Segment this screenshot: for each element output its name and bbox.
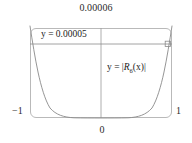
chart-title: 0.00006 — [0, 2, 192, 13]
curve-label: y = |R6(x)| — [107, 62, 146, 74]
curve-label-suffix: (x)| — [133, 62, 146, 72]
chart-screenshot: 0.00006 y = 0.00005 y = |R6(x)| −1 1 0 — [0, 0, 192, 143]
curve-label-prefix: y = | — [107, 62, 124, 72]
x-axis-tick-one: 1 — [176, 105, 181, 116]
plot-area — [30, 28, 172, 118]
x-axis-tick-minus-one: −1 — [12, 105, 23, 116]
x-axis-tick-zero: 0 — [96, 124, 108, 135]
reference-line-label: y = 0.00005 — [41, 29, 87, 39]
